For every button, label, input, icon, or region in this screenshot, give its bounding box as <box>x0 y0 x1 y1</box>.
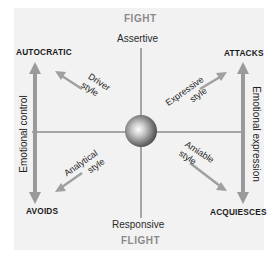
label-emotional-expression: Emotional expression <box>251 86 262 182</box>
emotional-control-arrow <box>29 62 41 204</box>
axis-label-assertive: Assertive <box>117 33 158 44</box>
corner-autocratic: AUTOCRATIC <box>16 47 72 57</box>
axis-label-responsive: Responsive <box>112 219 164 230</box>
center-sphere <box>125 115 157 147</box>
emotional-expression-arrow <box>237 62 249 204</box>
corner-attacks: ATTACKS <box>224 48 264 58</box>
corner-acquiesces: ACQUIESCES <box>210 207 267 217</box>
pole-fight: FIGHT <box>124 13 157 24</box>
label-emotional-control: Emotional control <box>18 95 29 172</box>
corner-avoids: AVOIDS <box>26 206 58 216</box>
pole-flight: FLIGHT <box>121 235 160 246</box>
